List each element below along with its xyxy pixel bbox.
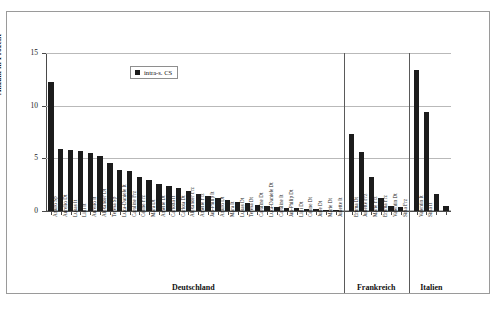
x-tick-label: Arturo Dt (220, 197, 225, 217)
x-tick-label: Jan-Philip It (210, 191, 215, 217)
y-axis-line (46, 53, 47, 211)
figure-container: 051015 Anzahl in Prozent Arturo SpAureli… (0, 0, 502, 320)
bar (78, 151, 83, 211)
x-tick-label: Julie Dt (318, 201, 323, 217)
y-tick-mark-0 (42, 211, 46, 212)
bar (48, 82, 53, 211)
bar (414, 70, 419, 211)
y-tick-label-15: 15 (2, 49, 38, 57)
x-tick-label: Siria Frz (403, 199, 408, 217)
x-tick-label: Juliette It (338, 198, 343, 217)
x-tick-label: Juliette Frz (363, 194, 368, 217)
x-tick-label: Lilli It (82, 204, 87, 217)
x-tick-label: Alexander Frz (190, 187, 195, 217)
x-tick-label: Amélie Frz (200, 194, 205, 217)
gridline-15 (46, 53, 451, 54)
y-tick-mark-10 (42, 106, 46, 107)
x-tick-label: Amélie Dt (161, 195, 166, 217)
gridline-10 (46, 106, 451, 107)
x-tick-label: Lilli Dt (299, 202, 304, 217)
y-tick-mark-15 (42, 53, 46, 54)
x-tick-label: Céline Frz (141, 195, 146, 217)
x-tick-label: Luca-Daniele Dt (269, 182, 274, 217)
x-tick-label: Marie Dt (328, 198, 333, 217)
x-tick-label: Carlotta It (171, 196, 176, 217)
group-label-frankreich: Frankreich (357, 283, 396, 292)
legend-swatch-intra-s-cs (135, 70, 140, 75)
x-tick-label: Céline Dt (308, 197, 313, 217)
y-tick-label-10: 10 (2, 102, 38, 110)
x-tick-label: Marie Frz (373, 196, 378, 217)
x-tick-label: Aurelio Dt (63, 195, 68, 217)
x-tick-label: Carlota Dt (181, 195, 186, 217)
group-separator (344, 53, 345, 211)
group-separator-lower (344, 211, 345, 293)
gridline-5 (46, 158, 451, 159)
x-tick-label: Lukas Dt (240, 198, 245, 217)
x-tick-label: Caroline Frz (132, 191, 137, 217)
x-tick-label: Aurelio It (92, 197, 97, 217)
x-tick-label: Mara It (230, 202, 235, 217)
x-tick-label: Siria It (428, 203, 433, 217)
group-label-deutschland: Deutschland (172, 283, 215, 292)
bar (424, 112, 429, 211)
group-label-italien: Italien (420, 283, 442, 292)
x-tick-label: Emma Dt (354, 197, 359, 217)
x-tick-label: Teresa Sp (112, 197, 117, 217)
y-tick-mark-5 (42, 158, 46, 159)
x-tick-label: Jan-Philip Dt (289, 189, 294, 217)
x-tick-label: Valentin It (419, 195, 424, 217)
y-tick-label-0: 0 (2, 207, 38, 215)
x-tick-mark (446, 211, 447, 215)
x-tick-label: Arturo Sp (53, 196, 58, 217)
y-axis-label: Anzahl in Prozent (0, 34, 3, 95)
x-tick-label: Lukas It (73, 200, 78, 217)
x-tick-label: Luca-Daniele It (122, 184, 127, 217)
x-tick-label: Caroline Dt (259, 193, 264, 217)
x-tick-label: Valentin Dt (393, 193, 398, 217)
x-tick-mark (436, 211, 437, 215)
x-tick-label: Caroline It (279, 195, 284, 217)
x-tick-label: Teresa Dt (249, 197, 254, 217)
group-separator (409, 53, 410, 211)
bar (434, 194, 439, 211)
x-tick-label: Alexander Dt (102, 189, 107, 217)
legend: intra-s. CS (130, 66, 178, 79)
x-tick-label: Emma Frz (383, 195, 388, 217)
x-tick-label: Mara Dt (151, 200, 156, 217)
legend-label-intra-s-cs: intra-s. CS (144, 69, 172, 76)
group-separator-lower (409, 211, 410, 293)
y-tick-label-5: 5 (2, 154, 38, 162)
